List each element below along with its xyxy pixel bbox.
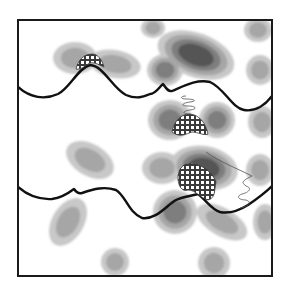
density-blob-level-3 — [156, 62, 175, 79]
density-blob-level-2 — [249, 22, 267, 37]
density-blob-level-3 — [164, 201, 187, 224]
density-blob-level-3 — [208, 111, 227, 130]
density-blob-level-2 — [145, 22, 160, 35]
density-blob-level-2 — [251, 160, 269, 180]
background — [0, 0, 288, 295]
density-blob-level-2 — [251, 60, 269, 79]
density-blob-level-2 — [106, 253, 124, 271]
density-map-canvas — [0, 0, 288, 295]
density-blob-level-2 — [149, 158, 175, 178]
density-blob-level-2 — [257, 210, 272, 233]
density-blob-level-2 — [253, 112, 271, 132]
density-figure — [0, 0, 288, 295]
